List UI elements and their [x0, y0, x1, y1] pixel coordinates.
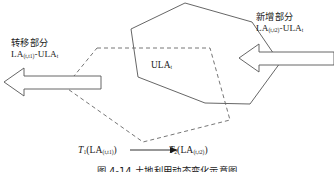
transfer-la-sub: (t,t1) [23, 53, 34, 59]
formula-left-close: ) [114, 144, 117, 155]
dashed-polygon-prior-region [65, 48, 230, 142]
label-transfer-formula: LA(t,t1)-ULAt [11, 49, 58, 60]
label-new-title: 新增部分 [256, 12, 303, 23]
label-new-formula: LA(t,t2)-ULAt [256, 23, 303, 34]
center-ula-text: ULA [151, 60, 171, 70]
formula-left-arg: (LA [86, 144, 102, 155]
figure-container: 转移部分 LA(t,t1)-ULAt 新增部分 LA(t,t2)-ULAt UL… [0, 0, 334, 172]
center-ula-sub: t [171, 64, 173, 70]
formula-right-arg: (LA [177, 144, 193, 155]
label-transfer-part: 转移部分 LA(t,t1)-ULAt [11, 38, 58, 60]
formula-left-arg-sub: (t,t1) [103, 149, 114, 155]
label-transfer-title: 转移部分 [11, 38, 58, 49]
transition-formula: T1(LA(t,t1))T2(LA(t,t2)) [78, 144, 208, 155]
label-center-ula: ULAt [151, 60, 172, 71]
transfer-ula-sub: t [57, 53, 59, 59]
new-ula: -ULA [279, 23, 301, 33]
new-ula-sub: t [302, 27, 304, 33]
formula-right-close: ) [204, 144, 207, 155]
transfer-ula: -ULA [34, 49, 56, 59]
arrow-transfer-left [4, 68, 101, 96]
formula-right-arg-sub: (t,t2) [193, 149, 204, 155]
new-la: LA [256, 23, 268, 33]
new-la-sub: (t,t2) [268, 27, 279, 33]
figure-caption: 图 4-14 土地利用动态变化示意图 [0, 163, 334, 172]
transfer-la: LA [11, 49, 23, 59]
label-new-part: 新增部分 LA(t,t2)-ULAt [256, 12, 303, 34]
arrow-new-left [239, 44, 334, 72]
